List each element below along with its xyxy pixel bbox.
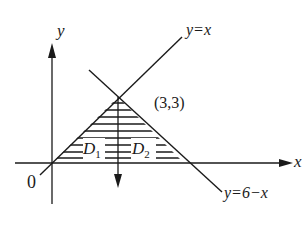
- y-axis-label: y: [57, 22, 65, 39]
- region-d2-subscript: 2: [144, 148, 150, 160]
- point-3-3-label: (3,3): [154, 95, 185, 111]
- region-diagram: y x 0 y=x y=6−x (3,3) D1 D2: [0, 0, 307, 226]
- x-axis: [15, 159, 293, 167]
- x-axis-arrow-icon: [279, 159, 293, 167]
- line-y-eq-x-label: y=x: [186, 22, 211, 38]
- region-d1-subscript: 1: [95, 148, 101, 160]
- region-d2-label: D2: [132, 140, 150, 160]
- down-arrow-icon: [114, 174, 122, 188]
- y-axis: [48, 43, 56, 204]
- origin-label: 0: [27, 173, 36, 191]
- region-d2-symbol: D: [132, 139, 144, 158]
- y-axis-arrow-icon: [48, 43, 56, 58]
- x-axis-label: x: [294, 153, 302, 170]
- region-d1-symbol: D: [83, 139, 95, 158]
- line-y-eq-6-minus-x-label: y=6−x: [224, 185, 268, 201]
- region-d1-label: D1: [83, 140, 101, 160]
